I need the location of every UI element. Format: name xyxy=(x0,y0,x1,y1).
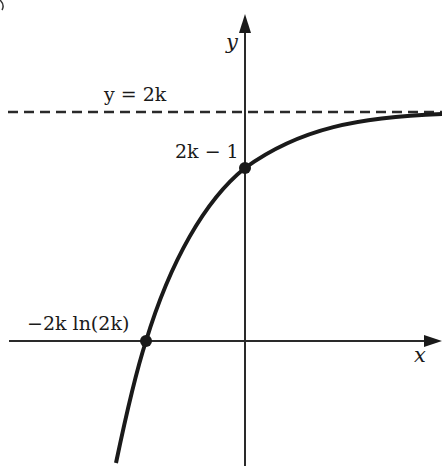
x-axis-label: x xyxy=(414,343,426,367)
graph-canvas xyxy=(0,0,442,466)
y-intercept-point xyxy=(239,162,251,174)
x-intercept-label: −2k ln(2k) xyxy=(27,312,129,334)
corner-fragment xyxy=(0,0,3,10)
y-axis-arrow-icon xyxy=(239,14,251,33)
y-intercept-label: 2k − 1 xyxy=(175,140,239,162)
asymptote-label: y = 2k xyxy=(104,83,166,105)
function-curve xyxy=(116,114,442,463)
x-intercept-point xyxy=(140,335,152,347)
x-axis-arrow-icon xyxy=(424,335,442,347)
y-axis-label: y xyxy=(226,30,238,54)
